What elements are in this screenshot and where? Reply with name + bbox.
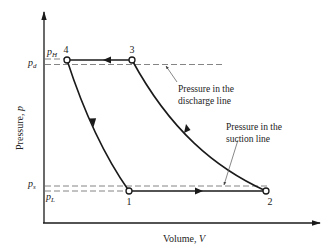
pd-label: pd [27,57,37,70]
y-axis-label: Pressure, p [14,106,25,150]
state-label-4: 4 [64,44,69,55]
state-label-2: 2 [268,196,273,207]
suction-leader [224,140,238,185]
state-point-1 [126,188,132,194]
state-point-4 [64,57,70,63]
pH-label: pH [46,46,58,59]
suction-annotation: Pressure in the suction line [226,122,284,144]
pL-label: pL [45,191,55,204]
arrow-right-icon [195,188,203,195]
x-axis-label: Volume, V [163,233,207,244]
arrow-up-icon [184,124,191,133]
arrow-left-icon [103,57,111,64]
state-point-2 [263,188,269,194]
discharge-leader [166,66,177,82]
pv-diagram: Pressure, p Volume, V pH pd ps pL [0,0,331,249]
discharge-annotation: Pressure in the discharge line [178,84,236,106]
state-point-3 [129,57,135,63]
ps-label: ps [27,178,36,191]
path-4-1 [67,60,129,191]
annotations: Pressure in the discharge line Pressure … [178,84,284,144]
direction-arrows [89,57,203,195]
state-label-1: 1 [127,196,132,207]
pressure-labels: pH pd ps pL [27,46,58,204]
state-label-3: 3 [130,44,135,55]
